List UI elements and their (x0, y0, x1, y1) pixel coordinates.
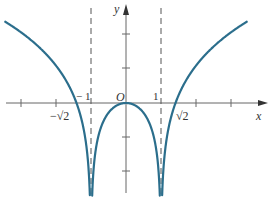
x-axis-arrow-icon (258, 100, 268, 106)
tick-label-sqrt2: √2 (176, 110, 189, 122)
tick-label-neg-sqrt2: −√2 (50, 110, 69, 122)
tick-label-one: 1 (153, 91, 159, 102)
curve-branch-2 (162, 22, 247, 195)
curve-branch-0 (5, 22, 90, 195)
y-axis-label: y (114, 3, 119, 15)
function-graph (0, 0, 268, 206)
x-axis-label: x (256, 110, 261, 122)
y-axis-arrow-icon (123, 4, 129, 15)
tick-label-neg-one: − 1 (76, 91, 90, 102)
origin-label: O (116, 91, 125, 103)
